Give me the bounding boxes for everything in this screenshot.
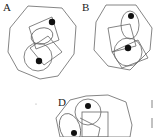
square-shape-lower (112, 40, 148, 68)
speck (35, 103, 36, 104)
circle-lower (114, 38, 142, 66)
panel-b (94, 5, 152, 70)
dot-b-upper (128, 13, 134, 19)
ellipse-lower (55, 110, 84, 137)
panel-d (55, 95, 132, 137)
octagon-shape (94, 5, 152, 70)
figure-canvas (0, 0, 154, 137)
dot-a-lower (36, 58, 42, 64)
dot-a-upper (49, 19, 55, 25)
dot-d-upper (85, 103, 91, 109)
circle-lower (24, 43, 52, 71)
dot-b-lower (125, 45, 131, 51)
dot-d-lower (71, 130, 77, 136)
panel-a (8, 6, 76, 79)
octagon-shape (56, 95, 132, 137)
octagon-shape (8, 6, 76, 79)
